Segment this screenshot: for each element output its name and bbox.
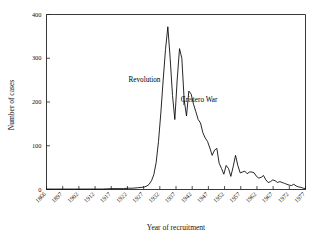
x-tick-label: 1947 [195, 190, 209, 204]
x-tick-label: 1942 [179, 190, 193, 204]
x-tick-label: 1952 [212, 190, 226, 204]
cases-line [47, 27, 306, 189]
data-series [47, 27, 306, 189]
line-chart: 0100200300400 18661897190219121917192219… [0, 0, 325, 240]
annotation-cristero: Cristero War [181, 96, 218, 104]
x-tick-label: 1977 [293, 190, 307, 204]
x-tick-label: 1937 [163, 190, 177, 204]
y-axis-tick-labels: 0100200300400 [32, 11, 42, 193]
y-tick-label: 400 [32, 11, 42, 18]
y-axis-title: Number of cases [7, 80, 16, 130]
x-tick-label: 1927 [131, 190, 145, 204]
x-tick-label: 1897 [50, 190, 64, 204]
x-tick-label: 1912 [82, 190, 96, 204]
x-axis-tick-labels: 1866189719021912191719221927193219371942… [34, 190, 307, 204]
y-tick-label: 100 [32, 142, 42, 149]
x-tick-label: 1866 [34, 190, 48, 204]
x-axis-title: Year of recruitment [147, 223, 206, 232]
x-tick-label: 1917 [98, 190, 112, 204]
y-axis-ticks [47, 15, 51, 190]
x-tick-label: 1922 [114, 190, 128, 204]
x-tick-label: 1957 [228, 190, 242, 204]
x-tick-label: 1967 [260, 190, 274, 204]
x-tick-label: 1972 [276, 190, 290, 204]
y-tick-label: 300 [32, 54, 42, 61]
x-tick-label: 1962 [244, 190, 258, 204]
annotation-revolution: Revolution [129, 76, 161, 84]
x-tick-label: 1902 [66, 190, 80, 204]
chart-figure: 0100200300400 18661897190219121917192219… [0, 0, 325, 240]
x-tick-label: 1932 [147, 190, 161, 204]
y-tick-label: 200 [32, 98, 42, 105]
